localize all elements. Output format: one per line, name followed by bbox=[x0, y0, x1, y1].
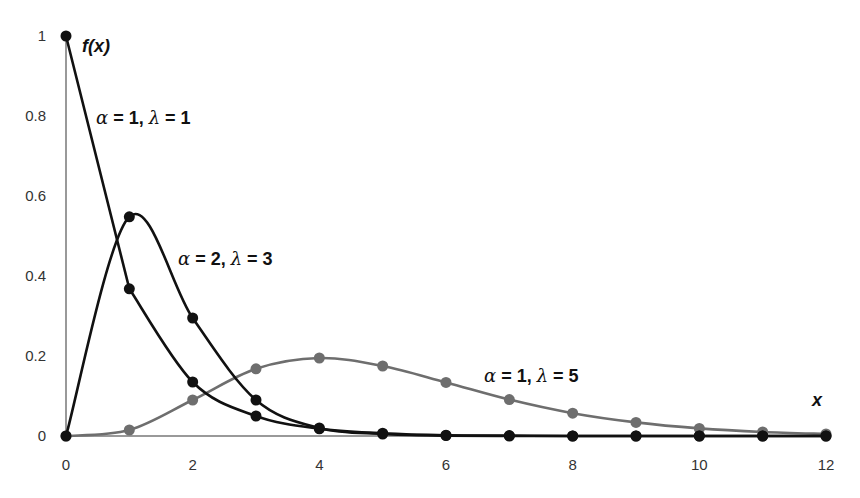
data-point bbox=[631, 431, 642, 442]
series-line bbox=[66, 36, 826, 436]
x-tick-label: 6 bbox=[442, 456, 450, 473]
data-point bbox=[124, 211, 135, 222]
series-3 bbox=[61, 353, 832, 442]
annotation-series-1: α = 1, λ = 1 bbox=[96, 107, 191, 128]
data-point bbox=[504, 430, 515, 441]
data-point bbox=[377, 428, 388, 439]
data-point bbox=[314, 423, 325, 434]
data-point bbox=[187, 395, 198, 406]
y-tick-label: 0.2 bbox=[25, 347, 46, 364]
x-tick-label: 12 bbox=[818, 456, 835, 473]
data-point bbox=[124, 425, 135, 436]
data-point bbox=[314, 353, 325, 364]
data-point bbox=[821, 431, 832, 442]
x-tick-label: 2 bbox=[188, 456, 196, 473]
data-point bbox=[377, 361, 388, 372]
annotation-series-3: α = 1, λ = 5 bbox=[484, 365, 579, 386]
y-tick-label: 0.6 bbox=[25, 187, 46, 204]
x-axis-label: x bbox=[811, 390, 823, 410]
annotation-series-2: α = 2, λ = 3 bbox=[178, 248, 273, 269]
data-point bbox=[441, 430, 452, 441]
y-tick-labels: 00.20.40.60.81 bbox=[25, 27, 46, 444]
axes bbox=[66, 36, 826, 436]
data-point bbox=[694, 431, 705, 442]
x-tick-label: 8 bbox=[568, 456, 576, 473]
data-point bbox=[187, 377, 198, 388]
x-tick-label: 0 bbox=[62, 456, 70, 473]
y-tick-label: 0.8 bbox=[25, 107, 46, 124]
x-tick-label: 10 bbox=[691, 456, 708, 473]
data-point bbox=[504, 394, 515, 405]
data-point bbox=[567, 408, 578, 419]
data-point bbox=[631, 417, 642, 428]
data-point bbox=[187, 313, 198, 324]
data-point bbox=[251, 411, 262, 422]
data-point bbox=[251, 395, 262, 406]
data-point bbox=[61, 431, 72, 442]
data-point bbox=[61, 31, 72, 42]
series-group bbox=[61, 31, 832, 442]
data-point bbox=[251, 363, 262, 374]
y-axis-label: f(x) bbox=[82, 36, 110, 56]
y-tick-label: 0.4 bbox=[25, 267, 46, 284]
data-point bbox=[757, 431, 768, 442]
y-tick-label: 1 bbox=[38, 27, 46, 44]
series-2 bbox=[61, 211, 832, 441]
data-point bbox=[124, 283, 135, 294]
data-point bbox=[567, 431, 578, 442]
chart: 00.20.40.60.81 024681012 f(x) x α = 1, λ… bbox=[0, 0, 860, 498]
data-point bbox=[441, 377, 452, 388]
x-tick-labels: 024681012 bbox=[62, 456, 835, 473]
y-tick-label: 0 bbox=[38, 427, 46, 444]
series-line bbox=[66, 358, 826, 436]
x-tick-label: 4 bbox=[315, 456, 323, 473]
